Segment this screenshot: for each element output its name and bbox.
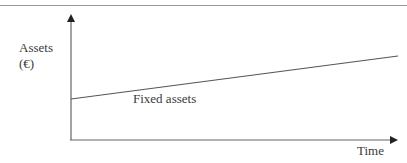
fixed-assets-label: Fixed assets	[133, 91, 196, 106]
y-axis-unit-label: (€)	[19, 56, 34, 71]
fixed-assets-line	[71, 56, 398, 99]
x-axis-label: Time	[357, 143, 384, 158]
y-axis-label: Assets	[19, 40, 53, 55]
chart-plot-area	[0, 0, 407, 163]
